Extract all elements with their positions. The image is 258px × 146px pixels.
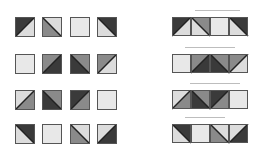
triangle-tile: [97, 17, 117, 37]
triangle-tile: [42, 90, 62, 110]
direction-arrow: [195, 10, 240, 11]
triangle-tile: [70, 17, 90, 37]
triangle-tile: [15, 124, 35, 144]
triangle-tile: [42, 124, 62, 144]
triangle-tile: [97, 90, 117, 110]
triangle-tile: [15, 17, 35, 37]
assembled-strip: [172, 90, 249, 110]
assembled-strip: [172, 54, 249, 74]
triangle-tile: [70, 124, 90, 144]
triangle-tile: [42, 54, 62, 74]
triangle-tile: [15, 54, 35, 74]
triangle-tile: [70, 90, 90, 110]
triangle-tile: [42, 17, 62, 37]
triangle-tile: [97, 54, 117, 74]
direction-arrow: [185, 47, 235, 48]
triangle-tile: [97, 124, 117, 144]
direction-arrow: [185, 117, 225, 118]
assembled-strip: [172, 124, 249, 144]
direction-arrow: [190, 83, 240, 84]
triangle-tile: [15, 90, 35, 110]
triangle-tile: [70, 54, 90, 74]
assembled-strip: [172, 17, 249, 37]
